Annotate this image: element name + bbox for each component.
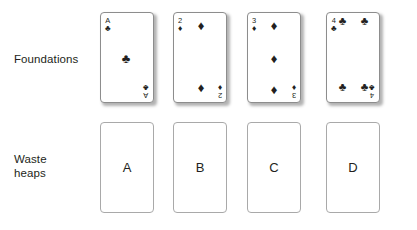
clubs-icon: ♣ [369, 84, 375, 91]
foundations-row-label: Foundations [14, 52, 78, 66]
waste-heap-slot-a[interactable]: A [100, 122, 154, 213]
card-index-bottom-right: 3 ♦ [292, 84, 296, 99]
diamonds-icon: ♦ [218, 84, 222, 91]
diamonds-icon: ♦ [252, 25, 256, 32]
card-index-top-left: A ♣ [105, 17, 111, 32]
diamonds-icon: ♦ [178, 25, 182, 32]
foundation-card-ace-clubs[interactable]: A ♣ A ♣ ♣ [100, 12, 154, 103]
waste-heap-label: D [327, 123, 379, 212]
diamonds-pip-icon: ♦ [271, 18, 278, 31]
clubs-pip-icon: ♣ [339, 82, 347, 94]
card-index-top-left: 3 ♦ [252, 17, 256, 32]
clubs-pip-icon: ♣ [361, 16, 369, 28]
foundation-card-three-diamonds[interactable]: 3 ♦ 3 ♦ ♦ ♦ ♦ [247, 12, 301, 103]
diamonds-icon: ♦ [292, 84, 296, 91]
waste-heap-label: C [248, 123, 300, 212]
diamonds-pip-icon: ♦ [198, 80, 205, 93]
diamonds-pip-icon: ♦ [271, 51, 278, 64]
card-layout-diagram: Foundations Waste heaps A ♣ A ♣ ♣ 2 ♦ 2 … [0, 0, 417, 230]
waste-heap-label: A [101, 123, 153, 212]
waste-heap-label: B [174, 123, 226, 212]
card-index-bottom-right: 4 ♣ [369, 84, 375, 99]
clubs-icon: ♣ [331, 25, 337, 32]
diamonds-pip-icon: ♦ [198, 18, 205, 31]
foundation-card-four-clubs[interactable]: 4 ♣ 4 ♣ ♣ ♣ ♣ ♣ [326, 12, 380, 103]
card-index-bottom-right: A ♣ [143, 84, 149, 99]
card-index-top-left: 4 ♣ [331, 17, 337, 32]
clubs-pip-icon: ♣ [361, 82, 369, 94]
clubs-pip-icon: ♣ [122, 51, 131, 64]
foundation-card-two-diamonds[interactable]: 2 ♦ 2 ♦ ♦ ♦ [173, 12, 227, 103]
card-index-top-left: 2 ♦ [178, 17, 182, 32]
waste-heap-slot-b[interactable]: B [173, 122, 227, 213]
waste-heap-slot-d[interactable]: D [326, 122, 380, 213]
clubs-icon: ♣ [143, 84, 149, 91]
waste-heaps-row-label: Waste heaps [14, 152, 47, 180]
waste-heap-slot-c[interactable]: C [247, 122, 301, 213]
card-index-bottom-right: 2 ♦ [218, 84, 222, 99]
clubs-icon: ♣ [105, 25, 111, 32]
clubs-pip-icon: ♣ [339, 16, 347, 28]
diamonds-pip-icon: ♦ [271, 82, 278, 95]
